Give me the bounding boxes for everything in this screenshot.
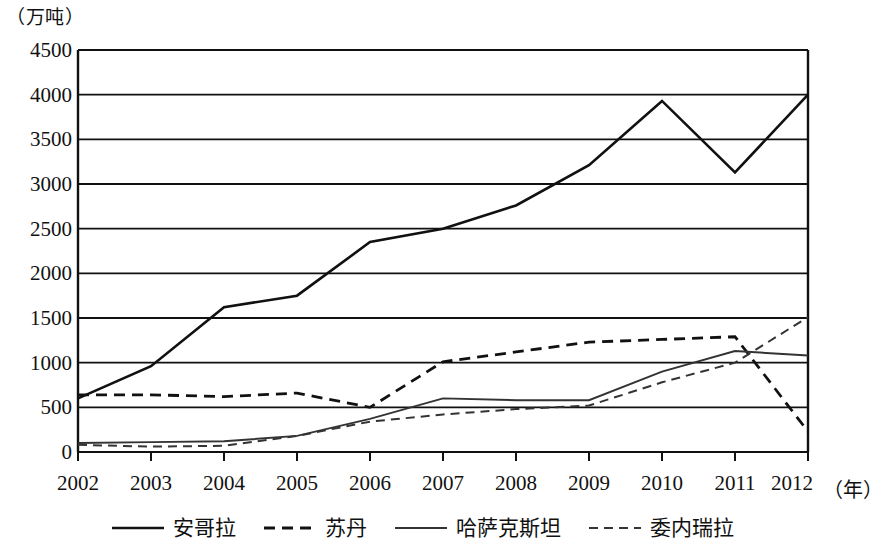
x-axis-tick-2003: 2003 — [130, 473, 172, 494]
y-axis-tick-3500: 3500 — [4, 129, 72, 150]
legend-item-委内瑞拉[interactable]: 委内瑞拉 — [589, 518, 734, 539]
plot-border — [78, 50, 808, 452]
x-axis-tick-2007: 2007 — [422, 473, 464, 494]
legend-item-哈萨克斯坦[interactable]: 哈萨克斯坦 — [395, 518, 561, 539]
y-axis-tick-0: 0 — [4, 442, 72, 463]
x-axis-tick-2010: 2010 — [641, 473, 683, 494]
x-axis-tick-2006: 2006 — [349, 473, 391, 494]
legend-item-苏丹[interactable]: 苏丹 — [264, 518, 367, 539]
y-axis-tick-1000: 1000 — [4, 352, 72, 373]
data-series-group — [78, 95, 808, 447]
chart-legend: 安哥拉苏丹哈萨克斯坦委内瑞拉 — [0, 513, 846, 543]
y-axis-tick-3000: 3000 — [4, 174, 72, 195]
x-axis-tick-2002: 2002 — [57, 473, 99, 494]
x-axis-tick-2008: 2008 — [495, 473, 537, 494]
legend-label: 安哥拉 — [173, 518, 236, 539]
chart-canvas — [78, 50, 808, 452]
x-axis-tick-2005: 2005 — [276, 473, 318, 494]
legend-item-安哥拉[interactable]: 安哥拉 — [112, 518, 236, 539]
legend-label: 苏丹 — [325, 518, 367, 539]
x-axis-unit-label: （年） — [823, 474, 874, 503]
plot-area — [78, 50, 808, 452]
x-axis-tick-2011: 2011 — [714, 473, 755, 494]
y-axis-tick-2000: 2000 — [4, 263, 72, 284]
y-axis-tick-2500: 2500 — [4, 218, 72, 239]
series-line-苏丹 — [78, 337, 808, 432]
x-axis-ticks — [78, 452, 808, 461]
x-axis-tick-2009: 2009 — [568, 473, 610, 494]
legend-swatch-icon — [589, 521, 641, 535]
gridlines — [78, 50, 808, 452]
y-axis-tick-4000: 4000 — [4, 84, 72, 105]
legend-label: 哈萨克斯坦 — [456, 518, 561, 539]
x-axis-tick-2012: 2012 — [771, 473, 813, 494]
legend-swatch-icon — [264, 521, 316, 535]
y-axis-tick-labels: 450040003500300025002000150010005000 — [0, 0, 72, 543]
legend-label: 委内瑞拉 — [650, 518, 734, 539]
legend-swatch-icon — [395, 521, 447, 535]
x-axis-tick-2004: 2004 — [203, 473, 245, 494]
y-axis-tick-500: 500 — [4, 397, 72, 418]
legend-swatch-icon — [112, 521, 164, 535]
y-axis-tick-1500: 1500 — [4, 308, 72, 329]
y-axis-tick-4500: 4500 — [4, 40, 72, 61]
